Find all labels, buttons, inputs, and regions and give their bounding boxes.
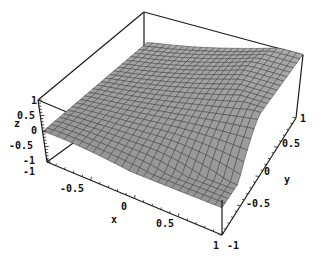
surface-plot-3d: 1 0.5 0 -0.5 -1 z -1 -0.5 0 0.5 1 x -1 -… <box>0 0 321 258</box>
z-tick-neg0.5: -0.5 <box>9 140 33 151</box>
y-tick-1: 1 <box>300 113 306 124</box>
x-tick-neg1: -1 <box>23 166 35 177</box>
x-axis-label: x <box>111 214 117 225</box>
y-tick-neg0.5: -0.5 <box>246 198 270 209</box>
box-edge-right-vertical <box>296 55 303 118</box>
y-tick-neg1: -1 <box>227 240 239 251</box>
x-tick-0.5: 0.5 <box>156 218 174 229</box>
y-tick-0: 0 <box>264 166 270 177</box>
x-tick-1: 1 <box>213 240 219 251</box>
tick-mark <box>274 147 278 148</box>
z-axis-label: z <box>14 118 20 129</box>
x-tick-neg0.5: -0.5 <box>60 183 84 194</box>
z-tick-0: 0 <box>31 125 37 136</box>
z-tick-1: 1 <box>31 95 37 106</box>
x-tick-0: 0 <box>121 201 127 212</box>
tick-mark <box>135 195 136 199</box>
tick-mark <box>237 205 241 206</box>
y-axis-label: y <box>284 174 290 185</box>
tick-mark <box>178 213 179 217</box>
tick-mark <box>256 176 260 177</box>
z-tick-neg1: -1 <box>23 155 35 166</box>
tick-mark <box>91 177 92 181</box>
y-tick-0.5: 0.5 <box>282 138 300 149</box>
